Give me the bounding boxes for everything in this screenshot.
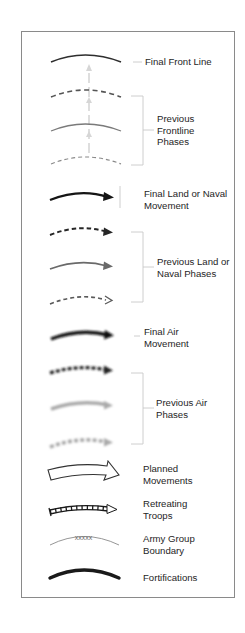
- fortifications-icon: [50, 570, 119, 578]
- label-planned-movements: Planned Movements: [143, 463, 193, 486]
- planned-movements-arrow-icon: [48, 461, 119, 480]
- label-line: Planned: [143, 463, 193, 475]
- label-line: Frontline: [157, 125, 194, 137]
- leader-lines: [120, 62, 154, 444]
- final-land-naval-arrow-icon: [50, 192, 114, 201]
- previous-air-dashed-arrow-icon: [50, 366, 113, 375]
- label-line: Naval Phases: [157, 268, 230, 280]
- label-final-front-line: Final Front Line: [145, 56, 212, 68]
- label-line: Final Land or Naval: [144, 188, 227, 200]
- label-line: Boundary: [143, 545, 195, 557]
- label-army-group-boundary: Army Group Boundary: [143, 533, 195, 556]
- frontline-progress-arrows-icon: [86, 64, 92, 153]
- previous-land-light-dashed-arrow-icon: [50, 296, 112, 304]
- previous-land-solid-arrow-icon: [50, 262, 113, 271]
- previous-frontline-dashed-icon: [51, 90, 121, 97]
- label-line: Troops: [143, 510, 187, 522]
- label-previous-frontline-phases: Previous Frontline Phases: [157, 113, 194, 148]
- label-retreating-troops: Retreating Troops: [143, 498, 187, 521]
- retreating-troops-arrow-icon: [49, 505, 117, 517]
- label-line: Movements: [143, 475, 193, 487]
- army-group-boundary-icon: xxxxx: [50, 534, 119, 545]
- label-line: Previous Air: [156, 397, 207, 409]
- label-line: Retreating: [143, 498, 187, 510]
- previous-frontline-light-dashed-icon: [51, 157, 121, 164]
- label-line: Phases: [157, 136, 194, 148]
- label-line: Final Front Line: [145, 56, 212, 68]
- label-line: Previous Land or: [157, 256, 230, 268]
- final-front-line-icon: [51, 55, 121, 62]
- boundary-marker-text: xxxxx: [75, 534, 93, 541]
- label-fortifications: Fortifications: [143, 572, 197, 584]
- label-line: Phases: [156, 409, 207, 421]
- previous-air-light-dashed-arrow-icon: [50, 438, 113, 447]
- label-previous-air-phases: Previous Air Phases: [156, 397, 207, 420]
- previous-land-dashed-arrow-icon: [50, 228, 113, 237]
- previous-frontline-solid-icon: [51, 124, 121, 131]
- label-line: Fortifications: [143, 572, 197, 584]
- label-final-air-movement: Final Air Movement: [144, 326, 189, 349]
- label-line: Movement: [144, 338, 189, 350]
- legend-symbols: xxxxx: [0, 0, 245, 633]
- label-line: Movement: [144, 200, 227, 212]
- previous-air-light-arrow-icon: [51, 401, 113, 410]
- label-previous-land-naval-phases: Previous Land or Naval Phases: [157, 256, 230, 279]
- label-line: Final Air: [144, 326, 189, 338]
- label-line: Previous: [157, 113, 194, 125]
- label-final-land-naval-movement: Final Land or Naval Movement: [144, 188, 227, 211]
- label-line: Army Group: [143, 533, 195, 545]
- final-air-arrow-icon: [51, 330, 114, 340]
